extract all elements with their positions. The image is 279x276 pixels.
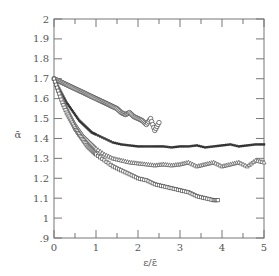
x-tick-label: 5 — [261, 242, 267, 253]
x-tick-label: 4 — [219, 242, 225, 253]
y-tick-label: 1.7 — [33, 73, 49, 84]
data-series — [52, 77, 266, 202]
series-squares — [52, 77, 219, 202]
y-tick-label: 1.8 — [33, 53, 49, 64]
y-axis-label: ᾱ — [15, 129, 22, 140]
x-tick-label: 3 — [177, 242, 183, 253]
chart: 012345.911.11.21.31.41.51.61.71.81.92 ε/… — [0, 0, 279, 276]
x-tick-label: 0 — [51, 242, 57, 253]
y-tick-label: 1.5 — [33, 113, 49, 124]
axis-ticks: 012345.911.11.21.31.41.51.61.71.81.92 — [33, 14, 267, 254]
y-tick-label: 1.6 — [33, 93, 49, 104]
y-tick-label: 1.3 — [33, 153, 49, 164]
y-tick-label: 1.2 — [33, 173, 49, 184]
y-tick-label: 1.1 — [33, 193, 49, 204]
x-tick-label: 2 — [135, 242, 141, 253]
y-tick-label: 1 — [43, 213, 49, 224]
y-tick-label: 1.4 — [33, 133, 49, 144]
y-tick-label: 2 — [43, 14, 49, 25]
y-tick-label: .9 — [39, 233, 49, 244]
x-axis-label: ε/ε̄ — [143, 257, 157, 268]
y-tick-label: 1.9 — [33, 33, 49, 44]
x-tick-label: 1 — [93, 242, 99, 253]
